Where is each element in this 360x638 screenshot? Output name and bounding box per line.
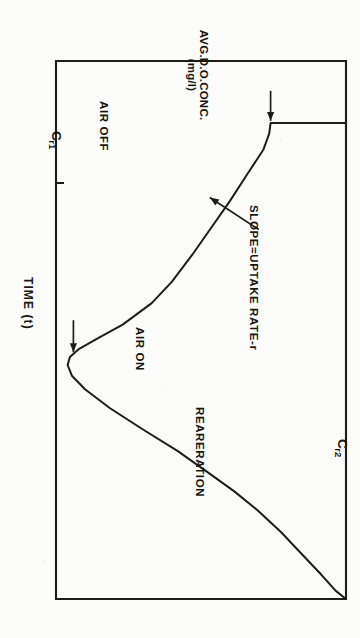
tick-cr1-subscript: r1 — [47, 140, 58, 149]
air-off-leader — [267, 91, 274, 121]
do-curve-visual — [68, 123, 346, 599]
annotation-air-off: AIR OFF — [98, 101, 110, 151]
air-off-arrowhead — [267, 112, 274, 121]
tick-label-cr2: Cr2 — [335, 439, 350, 458]
y-axis-label-line2: (mg/l) — [185, 15, 197, 135]
chart-drawing — [4, 9, 356, 629]
tick-cr2-subscript: r2 — [333, 448, 344, 457]
y-axis-label-line1: AVG.D.O.CONC. — [198, 30, 210, 121]
air-on-leader — [70, 320, 77, 352]
x-axis-label: TIME (t) — [21, 277, 34, 330]
annotation-air-on: AIR ON — [134, 327, 146, 371]
y-axis-label: AVG.D.O.CONC. (mg/l) — [185, 15, 210, 135]
tick-label-cr1: Cr1 — [49, 131, 64, 150]
figure-rotator: AVG.D.O.CONC. (mg/l) TIME (t) Cr1 Cr2 AI… — [4, 9, 356, 629]
annotation-slope-uptake-rate: SLOPE=UPTAKE RATE-r — [248, 205, 260, 350]
slope-arrowhead — [210, 198, 220, 206]
annotation-reaeration: REARERATION — [194, 407, 206, 497]
plot-stage: AVG.D.O.CONC. (mg/l) TIME (t) Cr1 Cr2 AI… — [4, 9, 356, 629]
